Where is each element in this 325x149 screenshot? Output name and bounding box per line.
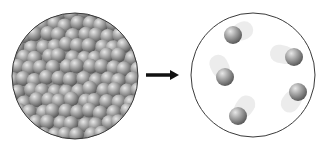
particle — [15, 5, 30, 20]
particle — [130, 18, 145, 33]
particle — [132, 128, 147, 143]
particle — [101, 4, 116, 19]
particle — [106, 16, 121, 31]
sparse-particles-panel — [191, 13, 315, 137]
particle — [5, 6, 20, 21]
particle — [138, 7, 153, 22]
particle — [137, 93, 152, 108]
particle — [138, 48, 153, 63]
particle — [69, 127, 84, 142]
particle — [123, 116, 138, 131]
particle — [138, 26, 153, 41]
particle — [143, 127, 158, 142]
particle — [10, 126, 25, 141]
particle — [9, 16, 24, 31]
particle — [216, 68, 234, 86]
particle — [130, 103, 145, 118]
phase-diagram — [0, 0, 325, 149]
particle — [141, 41, 156, 56]
particle — [40, 114, 55, 129]
arrow-icon — [146, 70, 179, 80]
particle — [289, 83, 307, 101]
dense-particles-panel — [3, 4, 159, 143]
particle — [113, 5, 128, 20]
particle — [137, 117, 152, 132]
particle — [27, 26, 42, 41]
particle — [285, 48, 303, 66]
particle — [224, 26, 242, 44]
particle — [36, 127, 51, 142]
particle — [3, 116, 18, 131]
dense-particles — [3, 4, 159, 143]
particle — [22, 125, 37, 140]
particle — [131, 82, 146, 97]
particle — [123, 4, 138, 19]
particle — [117, 126, 132, 141]
particle — [229, 107, 247, 125]
particle — [142, 103, 157, 118]
particle — [28, 6, 43, 21]
particle — [5, 27, 20, 42]
particle — [142, 15, 157, 30]
particle — [144, 83, 159, 98]
